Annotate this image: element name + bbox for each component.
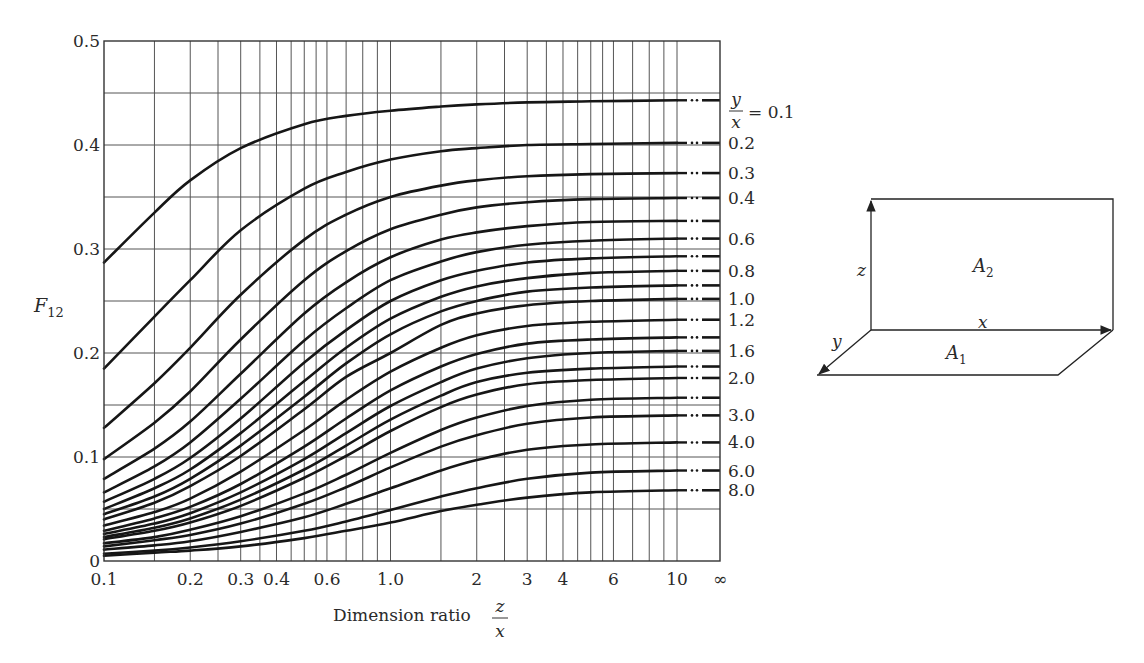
inf-extension-dot	[691, 237, 694, 240]
x-tick-label: 0.4	[263, 569, 290, 589]
inf-extension-dot	[696, 172, 699, 175]
param-label-first-value: = 0.1	[748, 102, 795, 122]
x-tick-label-infinity: ∞	[713, 569, 727, 589]
y-tick-label: 0.4	[73, 135, 100, 155]
inf-extension-dot	[696, 270, 699, 273]
inf-extension-dot	[691, 220, 694, 223]
series-label: 8.0	[728, 480, 755, 500]
x-axis-ticks: 0.10.20.30.40.61.0234610∞	[90, 569, 727, 589]
series-label: 1.2	[728, 310, 755, 330]
param-label-denominator: x	[731, 112, 741, 132]
inf-extension-dot	[696, 237, 699, 240]
plot-curves	[104, 99, 720, 556]
inf-extension-dot	[691, 377, 694, 380]
inf-extension-dot	[691, 99, 694, 102]
inf-extension-dot	[691, 489, 694, 492]
x-axis-label-denominator: x	[495, 621, 505, 641]
inf-extension-dot	[696, 318, 699, 321]
inf-extension-dot	[696, 336, 699, 339]
x-tick-label: 1.0	[377, 569, 404, 589]
inf-extension-dot	[691, 414, 694, 417]
series-label: 0.6	[728, 229, 755, 249]
inf-extension-dot	[696, 441, 699, 444]
x-tick-label: 0.3	[227, 569, 254, 589]
inf-extension-dot	[691, 197, 694, 200]
inf-extension-dot	[696, 255, 699, 258]
y-axis-ticks: 00.10.20.30.40.5	[73, 31, 100, 571]
series-label: 0.2	[728, 133, 755, 153]
y-tick-label: 0.5	[73, 31, 100, 51]
x-tick-label: 6	[608, 569, 619, 589]
y-tick-label: 0.1	[73, 447, 100, 467]
y-axis-arrow	[819, 330, 871, 374]
inf-extension-dot	[691, 336, 694, 339]
inf-extension-dot	[691, 298, 694, 301]
inf-extension-dot	[691, 441, 694, 444]
inf-extension-dot	[696, 298, 699, 301]
inf-extension-dot	[696, 99, 699, 102]
diagram-a2-label: A2	[971, 255, 994, 280]
inf-extension-dot	[696, 414, 699, 417]
series-label: 1.6	[728, 341, 755, 361]
series-label: 1.0	[728, 289, 755, 309]
x-tick-label: 4	[558, 569, 569, 589]
series-labels: 0.20.30.40.60.81.01.21.62.03.04.06.08.0	[728, 133, 755, 500]
y-tick-label: 0	[89, 551, 100, 571]
series-label: 0.8	[728, 261, 755, 281]
view-factor-chart: 00.10.20.30.40.5 0.10.20.30.40.61.023461…	[0, 0, 1144, 663]
inf-extension-dot	[696, 220, 699, 223]
x-tick-label: 0.2	[177, 569, 204, 589]
inf-extension-dot	[691, 255, 694, 258]
diagram-a1-label: A1	[944, 342, 967, 367]
inf-extension-dot	[691, 318, 694, 321]
x-tick-label: 0.6	[313, 569, 340, 589]
series-label: 0.3	[728, 163, 755, 183]
param-label-numerator: y	[730, 89, 741, 109]
inf-extension-dot	[691, 469, 694, 472]
x-tick-label: 2	[471, 569, 482, 589]
series-label: 0.4	[728, 188, 755, 208]
x-tick-label: 10	[666, 569, 688, 589]
series-label: 2.0	[728, 368, 755, 388]
inf-extension-dot	[691, 142, 694, 145]
diagram-z-label: z	[856, 260, 867, 280]
inf-extension-dot	[691, 172, 694, 175]
inf-extension-dot	[696, 365, 699, 368]
geometry-diagram	[817, 199, 1113, 375]
inf-extension-dot	[691, 350, 694, 353]
inf-extension-dot	[696, 396, 699, 399]
x-axis-label: Dimension ratio	[333, 605, 471, 625]
series-label: 6.0	[728, 461, 755, 481]
inf-extension-dot	[691, 396, 694, 399]
diagram-y-label: y	[831, 331, 842, 351]
y-axis-label: F12	[33, 294, 64, 320]
series-label: 4.0	[728, 432, 755, 452]
diagram-x-label: x	[978, 312, 988, 332]
inf-extension-dot	[691, 284, 694, 287]
inf-extension-dot	[696, 489, 699, 492]
inf-extension-dot	[696, 142, 699, 145]
inf-extension-dot	[696, 197, 699, 200]
x-tick-label: 3	[522, 569, 533, 589]
y-tick-label: 0.3	[73, 239, 100, 259]
inf-extension-dot	[696, 377, 699, 380]
surface-a2-edge	[871, 199, 1113, 330]
series-label: 3.0	[728, 405, 755, 425]
inf-extension-dot	[696, 469, 699, 472]
y-tick-label: 0.2	[73, 343, 100, 363]
x-axis-label-numerator: z	[495, 596, 506, 616]
inf-extension-dot	[696, 350, 699, 353]
x-tick-label: 0.1	[90, 569, 117, 589]
inf-extension-dot	[696, 284, 699, 287]
inf-extension-dot	[691, 365, 694, 368]
inf-extension-dot	[691, 270, 694, 273]
